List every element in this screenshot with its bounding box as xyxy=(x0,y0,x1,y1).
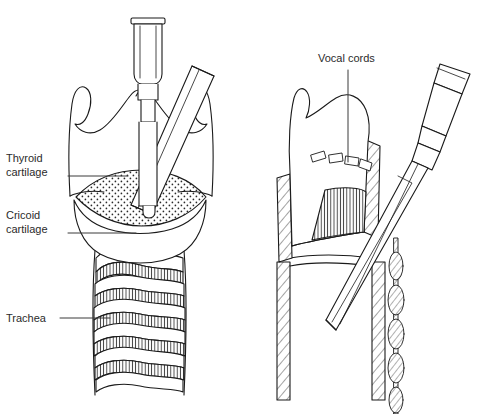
cut-tracheal-wall-right xyxy=(372,262,385,400)
cut-cartilage-edge-left xyxy=(277,174,292,262)
needle-hub-flared xyxy=(412,64,470,170)
label-thyroid-cartilage-line2: cartilage xyxy=(6,166,48,178)
label-vocal-cords: Vocal cords xyxy=(318,52,375,64)
label-trachea: Trachea xyxy=(6,312,47,324)
anterior-larynx-view xyxy=(69,18,214,395)
label-cricoid-cartilage-line1: Cricoid xyxy=(6,209,40,221)
illustration-canvas: Thyroid cartilage Cricoid cartilage Trac… xyxy=(0,0,488,414)
label-cricoid-cartilage-line2: cartilage xyxy=(6,223,48,235)
label-thyroid-cartilage-line1: Thyroid xyxy=(6,152,43,164)
cut-tracheal-wall-left xyxy=(277,262,290,400)
sagittal-larynx-view xyxy=(277,64,470,414)
coiled-guidewire xyxy=(388,238,404,414)
trachea-group xyxy=(93,248,187,395)
figure-root: Thyroid cartilage Cricoid cartilage Trac… xyxy=(0,0,488,414)
